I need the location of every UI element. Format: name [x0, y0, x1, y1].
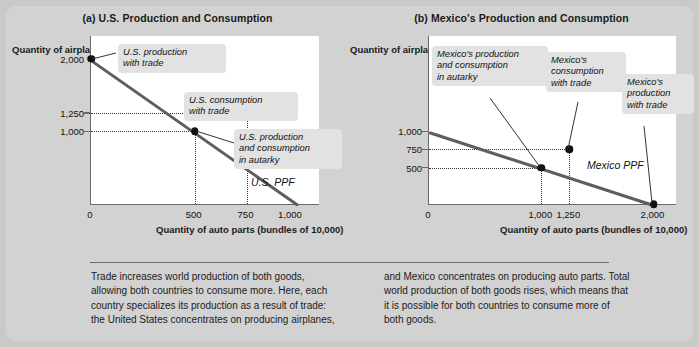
- panel-b-ytickmark-750: [422, 149, 428, 150]
- panel-a-xtick-750: 750: [238, 209, 254, 220]
- panel-a-xtick-0: 0: [87, 209, 92, 220]
- panel-a-ytick-1000: 1,000: [26, 126, 84, 137]
- panel-b-ytickmark-500: [422, 167, 428, 168]
- caption-right: and Mexico concentrates on producing aut…: [384, 270, 659, 328]
- panel-a-ytickmark-1250: [84, 112, 90, 113]
- caption-left: Trade increases world production of both…: [91, 270, 356, 328]
- panel-a-callout-consumption-with-trade: U.S. consumption with trade: [184, 92, 298, 121]
- panel-b-xtick-1000: 1,000: [528, 209, 552, 220]
- panel-b-ytickmark-1000: [422, 131, 428, 132]
- figure-panel: (a) U.S. Production and Consumption Quan…: [6, 6, 693, 341]
- charts-row: (a) U.S. Production and Consumption Quan…: [6, 6, 693, 256]
- panel-b-ytick-500: 500: [362, 162, 422, 173]
- panel-b-ytick-1000: 1,000: [362, 126, 422, 137]
- chart-panel-a: (a) U.S. Production and Consumption Quan…: [6, 6, 349, 256]
- panel-b-xtick-2000: 2,000: [641, 209, 665, 220]
- panel-a-ytickmark-1000: [84, 131, 90, 132]
- panel-b-callout-consumption-with-trade: Mexico's consumption with trade: [546, 52, 626, 92]
- panel-a-callout-autarky: U.S. production and consumption in autar…: [234, 129, 342, 169]
- panel-a-ytick-2000: 2,000: [26, 53, 84, 64]
- caption-divider: [90, 262, 609, 263]
- panel-b-ytick-750: 750: [362, 144, 422, 155]
- panel-a-xtick-1000: 1,000: [278, 209, 302, 220]
- panel-a-callout-production-with-trade: U.S. production with trade: [118, 44, 226, 73]
- panel-b-callout-autarky: Mexico's production and consumption in a…: [432, 46, 548, 86]
- panel-a-ytick-1250: 1,250: [26, 107, 84, 118]
- panel-b-xtick-0: 0: [425, 209, 430, 220]
- chart-panel-b: (b) Mexico's Production and Consumption …: [350, 6, 693, 256]
- panel-a-x-axis-label: Quantity of auto parts (bundles of 10,00…: [156, 224, 341, 236]
- panel-a-xtick-500: 500: [186, 209, 202, 220]
- panel-b-xtick-1250: 1,250: [556, 209, 580, 220]
- panel-b-x-axis-label: Quantity of auto parts (bundles of 10,00…: [500, 224, 685, 236]
- panel-b-callout-production-with-trade: Mexico's production with trade: [622, 74, 694, 114]
